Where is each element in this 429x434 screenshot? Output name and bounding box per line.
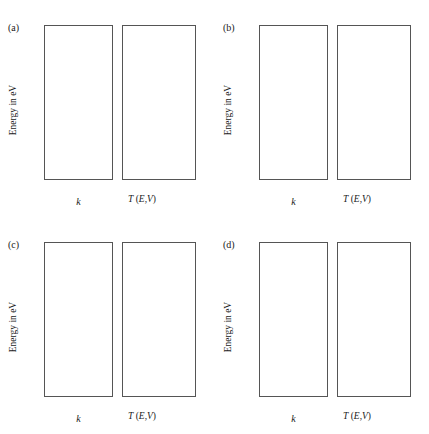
panel-d-band-curves — [260, 243, 327, 396]
panel-c-band-curves — [45, 243, 112, 396]
panel-a-transmission-curve — [123, 26, 195, 179]
panel-b-transmission-curve — [338, 26, 410, 179]
multi-panel-figure: (a) Energy in eV k T (E,V) (b) Energy in… — [0, 0, 429, 434]
panel-c: (c) Energy in eV k T (E,V) — [0, 217, 214, 434]
panel-b-kaxis-label: k — [259, 196, 328, 207]
panel-c-ylabel: Energy in eV — [8, 267, 18, 387]
panel-b-tag: (b) — [223, 22, 235, 33]
panel-a-band-curves — [45, 26, 112, 179]
panel-b-ylabel: Energy in eV — [223, 50, 233, 170]
panel-c-kaxis-label: k — [44, 413, 113, 424]
panel-d-band-plot — [259, 242, 328, 397]
panel-d: (d) Energy in eV k T (E,V) — [215, 217, 429, 434]
panel-d-taxis-label: T (E,V) — [343, 411, 371, 421]
panel-d-transmission-plot — [337, 242, 411, 397]
panel-c-transmission-plot — [122, 242, 196, 397]
panel-a-transmission-plot — [122, 25, 196, 180]
panel-d-tag: (d) — [223, 239, 235, 250]
panel-d-ylabel: Energy in eV — [223, 267, 233, 387]
panel-a-tag: (a) — [8, 22, 19, 33]
panel-c-band-plot — [44, 242, 113, 397]
panel-a: (a) Energy in eV k T (E,V) — [0, 0, 214, 217]
panel-d-kaxis-label: k — [259, 413, 328, 424]
panel-a-kaxis-label: k — [44, 196, 113, 207]
panel-b-transmission-plot — [337, 25, 411, 180]
panel-c-taxis-label: T (E,V) — [128, 411, 156, 421]
panel-c-transmission-curve — [123, 243, 195, 396]
panel-a-ylabel: Energy in eV — [8, 50, 18, 170]
panel-b: (b) Energy in eV k T (E,V) — [215, 0, 429, 217]
panel-d-transmission-curve — [338, 243, 410, 396]
panel-b-band-plot — [259, 25, 328, 180]
panel-a-taxis-label: T (E,V) — [128, 194, 156, 204]
panel-b-band-curves — [260, 26, 327, 179]
panel-a-band-plot — [44, 25, 113, 180]
panel-c-tag: (c) — [8, 239, 19, 250]
panel-b-taxis-label: T (E,V) — [343, 194, 371, 204]
